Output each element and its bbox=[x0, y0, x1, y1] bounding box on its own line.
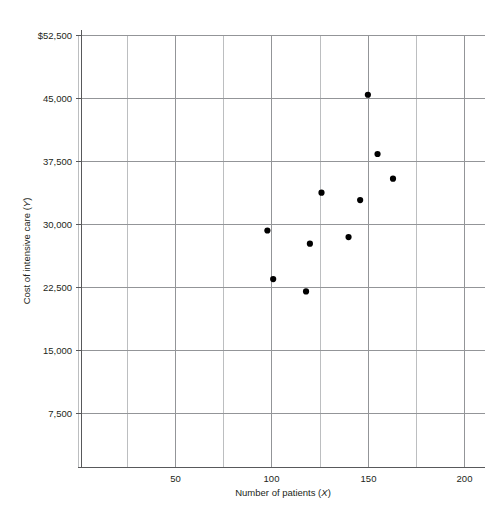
data-point bbox=[365, 92, 371, 98]
x-tick-label-200: 200 bbox=[457, 473, 473, 484]
x-tick-label-150: 150 bbox=[361, 473, 377, 484]
y-tick-label-15000: 15,000 bbox=[43, 345, 72, 356]
data-point bbox=[318, 190, 324, 196]
axis-lines bbox=[78, 30, 485, 468]
y-axis-title: Cost of intensive care (Y) bbox=[21, 198, 32, 305]
x-axis-title: Number of patients (X) bbox=[235, 487, 331, 498]
y-axis-title-tail: ) bbox=[21, 198, 32, 201]
scatter-plot-figure: $52,500 45,000 37,500 30,000 22,500 15,0… bbox=[0, 0, 499, 516]
y-axis-title-text: Cost of intensive care ( bbox=[21, 206, 32, 304]
data-point bbox=[303, 288, 309, 294]
data-point bbox=[307, 241, 313, 247]
y-tick-label-37500: 37,500 bbox=[43, 156, 72, 167]
x-tick-labels: 50 100 150 200 bbox=[170, 473, 472, 484]
data-point bbox=[345, 234, 351, 240]
y-tick-label-45000: 45,000 bbox=[43, 93, 72, 104]
x-tick-label-50: 50 bbox=[170, 473, 181, 484]
data-point bbox=[264, 227, 270, 233]
data-point bbox=[374, 151, 380, 157]
data-point bbox=[390, 176, 396, 182]
data-point bbox=[270, 276, 276, 282]
x-tick-label-100: 100 bbox=[264, 473, 280, 484]
x-axis-title-tail: ) bbox=[328, 487, 331, 498]
plot-canvas: $52,500 45,000 37,500 30,000 22,500 15,0… bbox=[0, 0, 499, 516]
y-tick-label-30000: 30,000 bbox=[43, 219, 72, 230]
y-tick-label-7500: 7,500 bbox=[48, 408, 72, 419]
data-point bbox=[357, 197, 363, 203]
data-points-layer bbox=[264, 92, 396, 295]
y-tick-label-52500: $52,500 bbox=[38, 30, 72, 41]
x-axis-title-text: Number of patients ( bbox=[235, 487, 322, 498]
y-tick-label-22500: 22,500 bbox=[43, 282, 72, 293]
y-tick-labels: $52,500 45,000 37,500 30,000 22,500 15,0… bbox=[38, 30, 72, 419]
vertical-gridlines bbox=[79, 36, 465, 468]
horizontal-gridlines bbox=[82, 36, 485, 414]
